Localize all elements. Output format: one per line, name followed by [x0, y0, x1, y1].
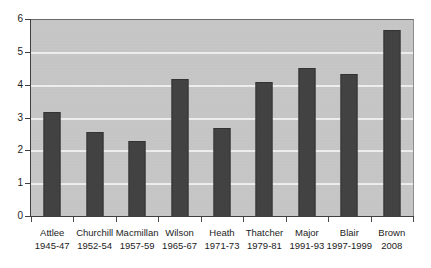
x-axis-category-label: Brown2008 [366, 226, 418, 252]
bar-slot [116, 20, 158, 217]
category-name: Brown [366, 226, 418, 239]
y-axis-tick-label: 5 [0, 47, 23, 57]
bar-chart: 0123456 Attlee1945-47Churchill1952-54Mac… [0, 0, 431, 268]
bar [44, 112, 61, 217]
x-axis-tick-mark [371, 217, 372, 222]
y-axis-tick-label: 2 [0, 145, 23, 155]
x-axis-tick-mark [116, 217, 117, 222]
x-axis-tick-mark [31, 217, 32, 222]
x-axis-tick-mark [201, 217, 202, 222]
plot-area [31, 19, 414, 217]
x-axis-tick-mark [243, 217, 244, 222]
bar-slot [201, 20, 243, 217]
bar-slot [158, 20, 200, 217]
bar [341, 74, 358, 217]
x-axis-tick-mark [286, 217, 287, 222]
bar-slot [286, 20, 328, 217]
y-axis-tick-label: 0 [0, 211, 23, 221]
bar-slot [73, 20, 115, 217]
bar [256, 82, 273, 217]
x-axis-tick-mark [73, 217, 74, 222]
bar [86, 132, 103, 217]
y-axis-tick-label: 1 [0, 178, 23, 188]
bar [298, 68, 315, 217]
x-axis-category-labels: Attlee1945-47Churchill1952-54Macmillan19… [31, 226, 413, 266]
bar [383, 30, 400, 217]
y-axis-tick-label: 4 [0, 80, 23, 90]
y-axis-tick-label: 3 [0, 113, 23, 123]
bar-slot [371, 20, 413, 217]
bars-layer [31, 20, 413, 217]
x-axis-tick-mark [328, 217, 329, 222]
bar-slot [328, 20, 370, 217]
x-axis-tick-mark [158, 217, 159, 222]
x-axis-line [31, 216, 414, 217]
y-axis-tick-label: 6 [0, 14, 23, 24]
bar [171, 79, 188, 217]
x-axis-tick-mark [413, 217, 414, 222]
bar-slot [243, 20, 285, 217]
bar [129, 141, 146, 217]
bar-slot [31, 20, 73, 217]
category-years: 2008 [366, 239, 418, 252]
bar [213, 128, 230, 217]
